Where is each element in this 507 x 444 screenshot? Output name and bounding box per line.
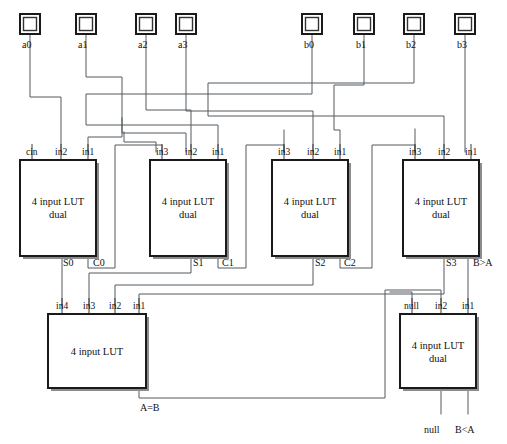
input-pad-layer — [20, 14, 475, 34]
lut-title-line1: 4 input LUT — [32, 196, 85, 207]
schematic-graphics — [0, 0, 507, 444]
port-label-lut5-in2: in2 — [435, 302, 447, 312]
lut-title-line2: dual — [179, 209, 197, 220]
wire-a0-lut0-in2 — [30, 46, 61, 152]
wire-a2-lut1-in2 — [146, 46, 191, 152]
wire-aeqb-lut5-in2 — [139, 290, 441, 398]
wire-a1-lut0-in1 — [86, 46, 122, 152]
pad-label-a2: a2 — [138, 40, 147, 50]
port-label-lut3-in2: in2 — [438, 148, 450, 158]
port-label-lut5-null: null — [404, 302, 419, 312]
pad-label-a3: a3 — [178, 40, 187, 50]
input-pad-b1[interactable] — [354, 14, 374, 34]
schematic-canvas: a0 a1 a2 a3 b0 b1 b2 b3 cin in2 in1 in3 … — [0, 0, 507, 444]
wire-bus-mid-left — [122, 118, 186, 152]
port-label-lut2-in3: in3 — [278, 148, 290, 158]
port-label-lut3-in3: in3 — [409, 148, 421, 158]
lut-title-lut0: 4 input LUT dual — [20, 195, 96, 221]
signal-label-a-eq-b: A=B — [140, 403, 160, 413]
lut-title-line2: dual — [49, 209, 67, 220]
wire-b2-lut3-in2 — [208, 46, 444, 152]
signal-label-s1: S1 — [193, 258, 204, 268]
signal-label-c0: C0 — [93, 258, 105, 268]
wire-bus-long-lower — [124, 132, 156, 152]
wire-s3-lut4-in1 — [139, 256, 444, 306]
lut-title-lut2: 4 input LUT dual — [272, 195, 348, 221]
port-label-lut2-in1: in1 — [334, 148, 346, 158]
lut-title-lut4: 4 input LUT — [48, 345, 146, 358]
signal-label-s3: S3 — [446, 258, 457, 268]
wire-b1-lut2-in1 — [334, 46, 364, 152]
port-label-lut2-in2: in2 — [307, 148, 319, 158]
lut-title-lut1: 4 input LUT dual — [150, 195, 226, 221]
lut-title-line2: dual — [432, 209, 450, 220]
lut-title-lut5: 4 input LUT dual — [400, 339, 476, 365]
input-pad-b3[interactable] — [455, 14, 475, 34]
port-label-lut4-in2: in2 — [109, 302, 121, 312]
port-label-lut1-in3: in3 — [156, 148, 168, 158]
pad-label-a0: a0 — [22, 40, 31, 50]
lut-title-line1: 4 input LUT — [71, 346, 124, 357]
input-pad-b2[interactable] — [404, 14, 424, 34]
lut-title-line2: dual — [429, 353, 447, 364]
lut-title-line1: 4 input LUT — [284, 196, 337, 207]
port-label-lut5-in1: in1 — [462, 302, 474, 312]
port-label-lut4-in4: in4 — [56, 302, 68, 312]
input-pad-b0[interactable] — [302, 14, 322, 34]
input-pad-a2[interactable] — [136, 14, 156, 34]
pad-label-a1: a1 — [78, 40, 87, 50]
input-pad-a0[interactable] — [20, 14, 40, 34]
pad-label-b1: b1 — [356, 40, 366, 50]
port-label-lut4-in3: in3 — [83, 302, 95, 312]
signal-label-b-gt-a: B>A — [473, 258, 493, 268]
port-label-lut0-in1: in1 — [82, 148, 94, 158]
pad-label-b3: b3 — [457, 40, 467, 50]
signal-label-s0: S0 — [63, 258, 74, 268]
lut-title-line1: 4 input LUT — [412, 340, 465, 351]
port-label-lut3-in1: in1 — [465, 148, 477, 158]
wire-b0-lut1-in1 — [86, 46, 312, 152]
lut-title-line1: 4 input LUT — [415, 196, 468, 207]
port-label-lut0-in2: in2 — [55, 148, 67, 158]
lut-title-line2: dual — [301, 209, 319, 220]
port-label-lut1-in1: in1 — [212, 148, 224, 158]
wire-a3-lut2-in2 — [186, 46, 313, 152]
signal-label-null-out: null — [424, 425, 440, 435]
wire-s2-lut4-in2 — [115, 256, 313, 306]
signal-label-c1: C1 — [222, 258, 234, 268]
signal-label-c2: C2 — [344, 258, 356, 268]
port-label-lut4-in1: in1 — [133, 302, 145, 312]
input-pad-a1[interactable] — [76, 14, 96, 34]
port-label-lut0-cin: cin — [26, 148, 38, 158]
signal-label-s2: S2 — [315, 258, 326, 268]
lut-title-line1: 4 input LUT — [162, 196, 215, 207]
signal-label-b-lt-a: B<A — [455, 425, 475, 435]
pad-label-b0: b0 — [304, 40, 314, 50]
lut-title-lut3: 4 input LUT dual — [403, 195, 479, 221]
input-pad-a3[interactable] — [176, 14, 196, 34]
port-label-lut1-in2: in2 — [185, 148, 197, 158]
pad-label-b2: b2 — [406, 40, 416, 50]
